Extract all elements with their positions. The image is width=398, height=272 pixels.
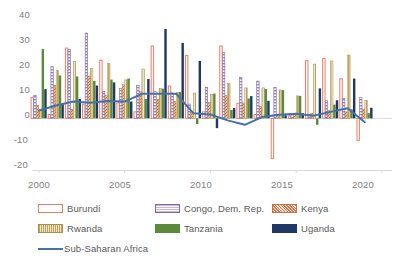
- bar: [164, 29, 166, 118]
- legend-item-uganda[interactable]: Uganda: [272, 223, 335, 234]
- bar: [257, 81, 259, 118]
- bar: [262, 88, 264, 118]
- legend-item-tanzania[interactable]: Tanzania: [155, 223, 223, 234]
- legend-item-burundi[interactable]: Burundi: [38, 203, 100, 214]
- legend-swatch-congo: [155, 204, 180, 213]
- bar: [54, 85, 56, 118]
- bar: [108, 64, 110, 119]
- bar: [31, 98, 33, 119]
- legend-label-burundi: Burundi: [67, 203, 100, 214]
- bar: [250, 96, 252, 118]
- bar: [294, 114, 296, 118]
- bar: [71, 109, 73, 118]
- bar: [360, 98, 362, 119]
- bar: [331, 61, 333, 118]
- bar: [93, 81, 95, 118]
- bar: [102, 91, 104, 118]
- bar: [193, 93, 195, 118]
- bar: [306, 61, 308, 119]
- bar: [237, 103, 239, 118]
- bar: [154, 92, 156, 119]
- bar: [345, 112, 347, 118]
- bar: [51, 67, 53, 119]
- bar: [68, 50, 70, 119]
- bar: [199, 61, 201, 118]
- bar: [171, 93, 173, 118]
- legend-swatch-kenya: [272, 204, 297, 213]
- bar: [362, 109, 364, 118]
- bar: [90, 68, 92, 118]
- bar: [288, 116, 290, 119]
- chart-plot-svg: [0, 0, 398, 200]
- bar: [174, 101, 176, 118]
- bar: [168, 86, 170, 118]
- bar: [203, 112, 205, 118]
- chart-container: 40 30 20 10 0 -10 -20 2000 2005 2010 201…: [0, 0, 398, 272]
- legend-swatch-uganda: [272, 224, 297, 233]
- legend-label-congo: Congo, Dem. Rep.: [184, 203, 264, 214]
- bar: [216, 118, 218, 128]
- bar: [137, 85, 139, 118]
- bar: [313, 64, 315, 118]
- bar: [365, 100, 367, 118]
- bar: [225, 96, 227, 119]
- bar: [34, 96, 36, 119]
- bar: [336, 100, 338, 118]
- bar: [39, 111, 41, 119]
- bar: [105, 95, 107, 118]
- bar: [233, 108, 235, 118]
- bar: [220, 46, 222, 118]
- bar: [85, 33, 87, 118]
- bar: [65, 48, 67, 118]
- bar: [276, 116, 278, 119]
- bar: [73, 62, 75, 119]
- bar: [36, 105, 38, 118]
- legend-item-congo[interactable]: Congo, Dem. Rep.: [155, 203, 264, 214]
- bar: [323, 58, 325, 118]
- bar: [76, 76, 78, 118]
- bar: [119, 89, 121, 119]
- legend-swatch-rwanda: [38, 224, 63, 233]
- legend-swatch-burundi: [38, 204, 63, 213]
- bar: [291, 114, 293, 118]
- legend-label-rwanda: Rwanda: [67, 223, 102, 234]
- bar: [254, 114, 256, 118]
- bar: [110, 80, 112, 119]
- bar: [145, 99, 147, 118]
- legend-label-uganda: Uganda: [301, 223, 335, 234]
- bar: [156, 99, 158, 118]
- bar: [325, 101, 327, 119]
- bar: [181, 43, 183, 118]
- bar: [247, 98, 249, 118]
- legend-item-rwanda[interactable]: Rwanda: [38, 223, 102, 234]
- bar: [230, 110, 232, 118]
- bar: [242, 103, 244, 119]
- bar: [147, 79, 149, 118]
- bar: [134, 112, 136, 118]
- bar: [240, 78, 242, 119]
- legend-item-kenya[interactable]: Kenya: [272, 203, 328, 214]
- bar: [265, 89, 267, 118]
- bar: [59, 75, 61, 118]
- bar: [228, 83, 230, 118]
- bar: [130, 102, 132, 119]
- bar: [367, 113, 369, 118]
- bar: [271, 118, 273, 158]
- bar: [88, 76, 90, 118]
- bar: [151, 46, 153, 118]
- bar: [196, 118, 198, 124]
- chart-legend: Burundi Congo, Dem. Rep. Kenya Rwanda Ta…: [0, 198, 398, 272]
- bar: [370, 108, 372, 119]
- bar: [56, 71, 58, 119]
- bar: [185, 56, 187, 119]
- legend-label-sub-saharan-africa: Sub-Saharan Africa: [64, 243, 148, 254]
- legend-label-kenya: Kenya: [301, 203, 328, 214]
- bar: [274, 87, 276, 118]
- bar: [125, 80, 127, 118]
- legend-item-sub-saharan-africa[interactable]: Sub-Saharan Africa: [38, 243, 148, 254]
- legend-swatch-tanzania: [155, 224, 180, 233]
- bar: [100, 60, 102, 118]
- bar: [44, 89, 46, 118]
- bar: [340, 79, 342, 119]
- bar: [222, 53, 224, 119]
